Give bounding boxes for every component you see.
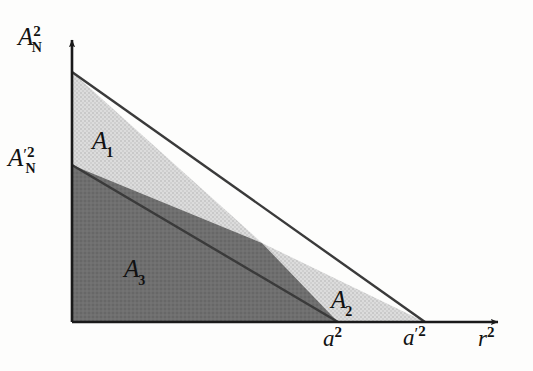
y-axis-label-sup: 2 (33, 23, 41, 39)
x-tick-a-prime-squared-base: a (403, 325, 415, 350)
region-A2-sub: 2 (345, 304, 352, 319)
y-intercept-prime-sup: 2 (27, 144, 35, 160)
x-axis-label-base: r (478, 326, 487, 351)
figure-root: A2N A′2N a2 a′2 r2 A1 A2 A3 (0, 0, 533, 371)
y-axis-label-base: A (18, 23, 33, 50)
region-A1-label: A1 (92, 128, 114, 156)
x-tick-a-squared-label: a2 (323, 327, 342, 350)
y-intercept-prime-sub: N (26, 161, 36, 176)
x-axis-label-sup: 2 (487, 324, 495, 340)
y-intercept-prime-label: A′2N (8, 145, 45, 173)
x-tick-a-prime-squared-sup: 2 (418, 323, 426, 339)
region-A1-sub: 1 (106, 145, 113, 160)
y-axis-label-sub: N (32, 40, 42, 55)
region-A1-base: A (92, 127, 107, 154)
y-axis-label: A2N (18, 24, 51, 52)
x-axis-label: r2 (478, 327, 494, 350)
region-A3-label: A3 (124, 256, 146, 284)
region-A3-sub: 3 (138, 273, 145, 288)
region-A3-base: A (124, 255, 139, 282)
geometry-diagram (0, 0, 533, 371)
x-tick-a-squared-sup: 2 (335, 324, 343, 340)
x-tick-a-prime-squared-label: a′2 (403, 326, 426, 349)
y-intercept-prime-base: A (8, 144, 23, 171)
region-A2-label: A2 (331, 287, 353, 315)
x-tick-a-squared-base: a (323, 326, 335, 351)
region-A2-base: A (331, 286, 346, 313)
